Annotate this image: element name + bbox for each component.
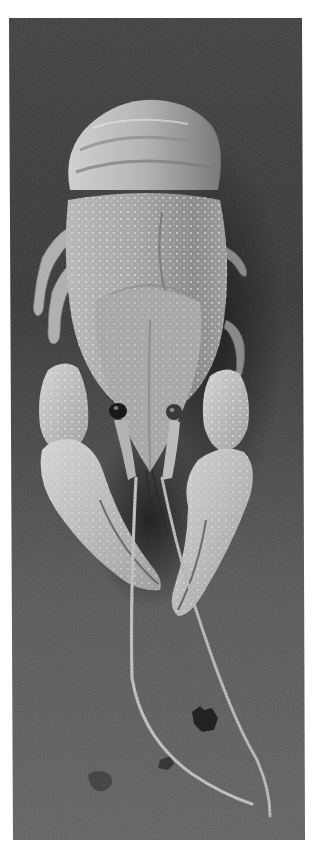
crayfish-photo (0, 0, 318, 854)
eye-right (166, 404, 182, 420)
eye-left (109, 403, 127, 419)
